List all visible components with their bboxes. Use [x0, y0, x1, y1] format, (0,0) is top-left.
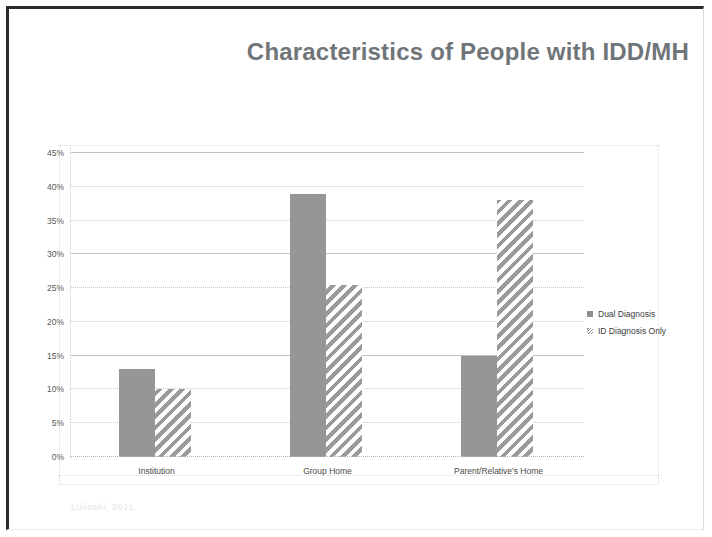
- y-axis-tick-label: 15%: [47, 351, 64, 361]
- x-axis-line: [71, 456, 584, 457]
- bar-chart: 0%5%10%15%20%25%30%35%40%45% Institution…: [59, 145, 659, 485]
- y-axis-tick-label: 45%: [47, 148, 64, 158]
- y-axis-tick-label: 20%: [47, 317, 64, 327]
- page-title: Characteristics of People with IDD/MH: [237, 35, 689, 69]
- x-axis-lower-rule: [59, 475, 659, 476]
- y-axis-tick-label: 35%: [47, 216, 64, 226]
- legend-swatch-icon: [587, 311, 593, 317]
- bar: [155, 389, 191, 457]
- legend-item-label: ID Diagnosis Only: [598, 326, 666, 336]
- legend-item: Dual Diagnosis: [587, 305, 697, 322]
- bar: [290, 194, 326, 457]
- y-axis-tick-label: 40%: [47, 182, 64, 192]
- plot-area: 0%5%10%15%20%25%30%35%40%45% Institution…: [71, 153, 584, 457]
- bar-group: Institution: [71, 153, 242, 457]
- chart-legend: Dual DiagnosisID Diagnosis Only: [587, 305, 697, 339]
- bar: [119, 369, 155, 457]
- bar-group: Parent/Relative's Home: [413, 153, 584, 457]
- legend-item-label: Dual Diagnosis: [598, 309, 655, 319]
- y-axis-tick-label: 5%: [52, 418, 64, 428]
- bar-group: Group Home: [242, 153, 413, 457]
- slide: Characteristics of People with IDD/MH 0%…: [6, 6, 704, 530]
- bar: [497, 200, 533, 457]
- bar: [461, 356, 497, 457]
- y-axis-tick-label: 0%: [52, 452, 64, 462]
- legend-item: ID Diagnosis Only: [587, 322, 697, 339]
- y-axis-tick-label: 25%: [47, 283, 64, 293]
- legend-swatch-icon: [587, 328, 593, 334]
- footnote: Lulinski, 2011.: [71, 502, 137, 512]
- bar: [326, 285, 362, 457]
- y-axis-tick-label: 30%: [47, 249, 64, 259]
- y-axis-tick-label: 10%: [47, 384, 64, 394]
